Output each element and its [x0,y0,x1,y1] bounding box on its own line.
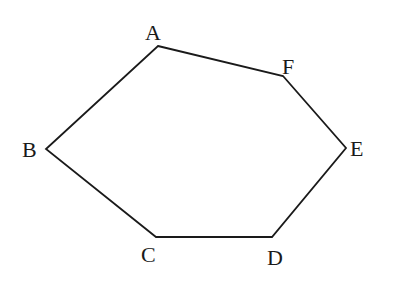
vertex-label-e: E [350,136,363,161]
vertex-label-a: A [145,20,161,45]
hexagon-ABCDEF [46,46,346,237]
vertex-label-f: F [282,54,294,79]
vertex-label-b: B [22,137,37,162]
vertex-label-c: C [141,242,156,267]
vertex-label-d: D [267,245,283,270]
hexagon-diagram: A F E D C B [0,0,393,289]
